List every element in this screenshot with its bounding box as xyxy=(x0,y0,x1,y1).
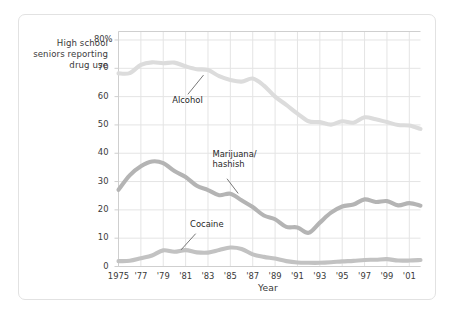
series-annotation-cocaine: Cocaine xyxy=(190,219,224,229)
annotation-leader-line xyxy=(227,179,238,194)
y-tick-label: 70 xyxy=(83,62,109,72)
series-line-marijuana-hashish xyxy=(119,161,421,233)
annotation-leader-line xyxy=(188,75,204,94)
series-annotation-marijuana-hashish: Marijuana/ hashish xyxy=(212,149,256,170)
series-line-cocaine xyxy=(119,247,421,262)
y-tick-label: 20 xyxy=(83,204,109,214)
y-tick-label: 0 xyxy=(83,261,109,271)
series-line-alcohol xyxy=(119,62,421,129)
y-tick-label: 40 xyxy=(83,147,109,157)
annotation-leader-line xyxy=(181,234,196,250)
y-tick-label: 80% xyxy=(83,34,113,44)
y-tick-label: 10 xyxy=(83,232,109,242)
x-tick-label: '01 xyxy=(392,271,426,281)
y-tick-label: 50 xyxy=(83,119,109,129)
series-annotation-alcohol: Alcohol xyxy=(172,95,203,105)
y-tick-label: 60 xyxy=(83,91,109,101)
y-tick-label: 30 xyxy=(83,176,109,186)
chart-figure: High school seniors reporting drug use Y… xyxy=(0,0,456,317)
